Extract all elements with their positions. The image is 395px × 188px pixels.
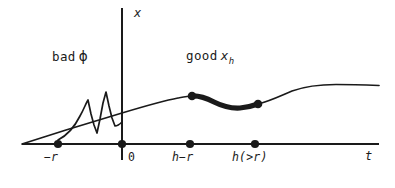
tick-label-h-minus-r: h−r (172, 152, 193, 164)
bad-phi-text: bad (52, 49, 76, 64)
good-xh-curve-left (22, 96, 192, 144)
bad-phi-annotation: badϕ (52, 50, 88, 64)
phi-symbol: ϕ (76, 48, 88, 64)
diagram-svg (0, 0, 395, 188)
tick-label-minus-r-text: −r (44, 150, 58, 164)
good-xh-highlighted-segment (192, 96, 258, 108)
axis-dot-h-minus-r (186, 140, 194, 148)
good-xh-text: good (186, 48, 218, 63)
tick-label-minus-r: −r (44, 152, 58, 164)
tick-label-zero: 0 (128, 152, 135, 164)
axis-dot-minus-r (54, 140, 62, 148)
tick-label-h-greater-r-text: h(>r) (232, 150, 268, 164)
t-axis-label: t (365, 150, 372, 162)
axis-dot-zero (118, 140, 126, 148)
tick-label-h-greater-r: h(>r) (232, 152, 268, 164)
figure-canvas: x t badϕ goodxh −r 0 h−r h(>r) (0, 0, 395, 188)
good-xh-subscript: h (229, 56, 235, 66)
curve-marker-h (254, 100, 263, 109)
good-xh-curve-group (22, 85, 379, 145)
good-xh-symbol: x (218, 48, 229, 63)
tick-label-h-minus-r-text: h−r (172, 150, 193, 164)
x-axis-label: x (134, 7, 141, 19)
good-xh-curve-right (258, 85, 379, 105)
axis-dot-h (251, 140, 259, 148)
curve-marker-h-minus-r (188, 92, 197, 101)
good-xh-annotation: goodxh (186, 50, 234, 66)
